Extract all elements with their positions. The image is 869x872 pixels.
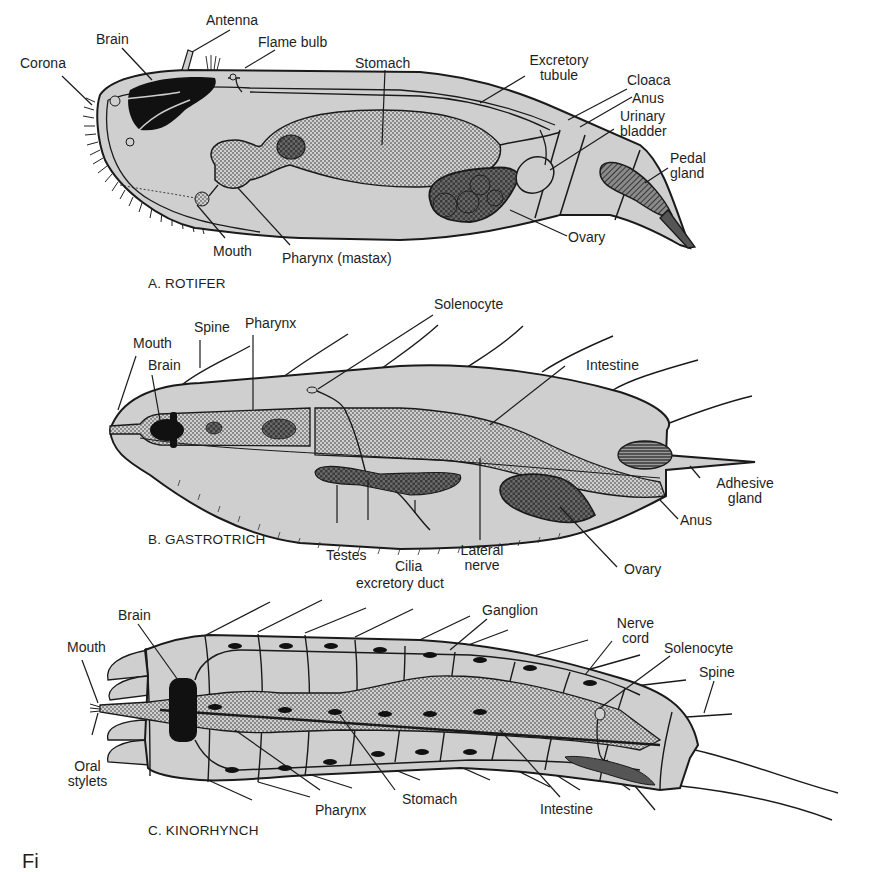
label-pharynx: Pharynx: [245, 316, 296, 331]
label-lateral-nerve: Lateral nerve: [457, 543, 507, 573]
label-intestine: Intestine: [540, 802, 593, 817]
label-nerve-cord: Nerve cord: [613, 616, 658, 646]
caption-rotifer: A. ROTIFER: [148, 276, 226, 291]
label-mouth: Mouth: [67, 640, 106, 655]
label-pedal-gland: Pedal gland: [670, 151, 715, 181]
label-ganglion: Ganglion: [482, 603, 538, 618]
label-corona: Corona: [20, 56, 66, 71]
figure-caption-fragment: Fi: [22, 850, 39, 872]
label-adhesive-gland: Adhesive gland: [710, 476, 780, 506]
label-flame-bulb: Flame bulb: [258, 35, 327, 50]
label-urinary-bladder: Urinary bladder: [620, 109, 675, 139]
label-excretory-tubule: Excretory tubule: [524, 53, 594, 83]
label-antenna: Antenna: [206, 13, 258, 28]
label-cilia: Cilia: [395, 559, 422, 574]
caption-kinorhynch: C. KINORHYNCH: [148, 823, 259, 838]
figure-illustration: [0, 0, 869, 872]
label-anus: Anus: [632, 91, 664, 106]
label-mouth: Mouth: [133, 336, 172, 351]
label-pharynx-mastax: Pharynx (mastax): [282, 251, 392, 266]
label-solenocyte: Solenocyte: [434, 297, 503, 312]
label-anus: Anus: [680, 513, 712, 528]
label-stomach: Stomach: [355, 56, 410, 71]
label-spine: Spine: [194, 320, 230, 335]
label-pharynx: Pharynx: [315, 803, 366, 818]
label-stomach: Stomach: [402, 792, 457, 807]
gastrotrich-drawing: [110, 315, 755, 567]
label-excretory-duct: excretory duct: [356, 576, 444, 591]
kinorhynch-drawing: [82, 600, 838, 820]
label-cloaca: Cloaca: [627, 73, 671, 88]
label-brain: Brain: [148, 358, 181, 373]
label-testes: Testes: [326, 548, 366, 563]
label-brain: Brain: [118, 608, 151, 623]
label-intestine: Intestine: [586, 358, 639, 373]
label-oral-stylets: Oral stylets: [60, 759, 115, 789]
label-mouth: Mouth: [213, 244, 252, 259]
label-spine: Spine: [699, 665, 735, 680]
label-solenocyte: Solenocyte: [664, 641, 733, 656]
label-ovary: Ovary: [624, 562, 661, 577]
caption-gastrotrich: B. GASTROTRICH: [148, 532, 266, 547]
label-ovary: Ovary: [568, 230, 605, 245]
label-brain: Brain: [96, 32, 129, 47]
